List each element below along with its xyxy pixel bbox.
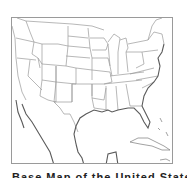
state-boundaries — [12, 18, 164, 132]
coastlines — [16, 44, 164, 164]
map-frame — [11, 17, 173, 164]
caribbean-islands — [130, 118, 170, 161]
map-caption: Base Map of the United States — [12, 172, 187, 178]
us-outline-map — [12, 18, 173, 164]
